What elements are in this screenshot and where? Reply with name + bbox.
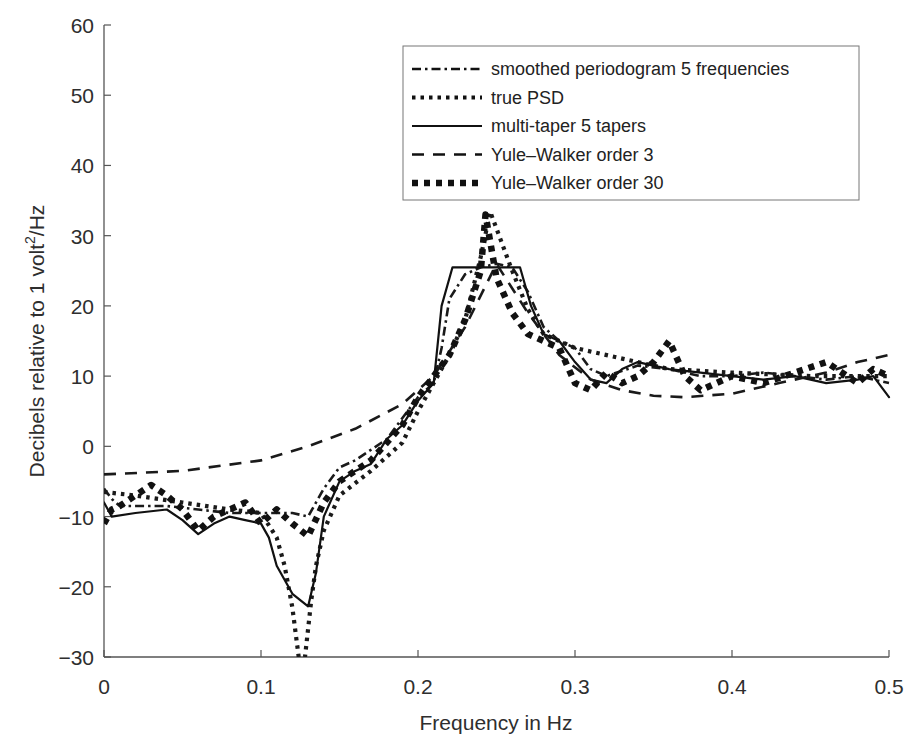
- legend: smoothed periodogram 5 frequenciestrue P…: [403, 46, 859, 200]
- x-tick-label: 0: [98, 675, 110, 698]
- legend-item-label: multi-taper 5 tapers: [491, 116, 646, 136]
- x-tick-label: 0.2: [403, 675, 432, 698]
- y-axis-label-sup: 2: [22, 236, 38, 244]
- series-smoothed-periodogram-5-frequencies: [104, 264, 889, 517]
- y-tick-label: −30: [58, 646, 94, 669]
- legend-item-label: Yule–Walker order 3: [491, 145, 653, 165]
- y-tick-label: 40: [71, 154, 94, 177]
- legend-item-label: Yule–Walker order 30: [491, 173, 663, 193]
- x-axis-label: Frequency in Hz: [420, 711, 573, 734]
- x-tick-label: 0.1: [246, 675, 275, 698]
- series-multi-taper-5-tapers: [104, 267, 889, 606]
- x-tick-label: 0.5: [874, 675, 903, 698]
- y-tick-label: 30: [71, 225, 94, 248]
- legend-item-label: smoothed periodogram 5 frequencies: [491, 59, 789, 79]
- y-tick-label: 20: [71, 295, 94, 318]
- y-axis-label-suffix: /Hz: [25, 205, 48, 237]
- y-axis-label: Decibels relative to 1 volt2/Hz: [22, 205, 48, 478]
- y-tick-label: 50: [71, 84, 94, 107]
- series-true-psd: [104, 212, 889, 657]
- series-yule-walker-order-30: [104, 215, 889, 537]
- y-tick-label: −10: [58, 506, 94, 529]
- x-tick-label: 0.4: [717, 675, 747, 698]
- legend-item-label: true PSD: [491, 88, 564, 108]
- y-tick-label: 10: [71, 365, 94, 388]
- y-tick-label: −20: [58, 576, 94, 599]
- y-ticks: −30−20−100102030405060: [58, 14, 111, 669]
- x-tick-label: 0.3: [560, 675, 589, 698]
- y-axis-label-prefix: Decibels relative to 1 volt: [25, 244, 48, 478]
- series-layer: [104, 212, 889, 657]
- y-tick-label: 0: [82, 435, 94, 458]
- series-yule-walker-order-3: [104, 264, 889, 475]
- y-tick-label: 60: [71, 14, 94, 37]
- psd-chart: −30−20−100102030405060 00.10.20.30.40.5 …: [0, 0, 919, 753]
